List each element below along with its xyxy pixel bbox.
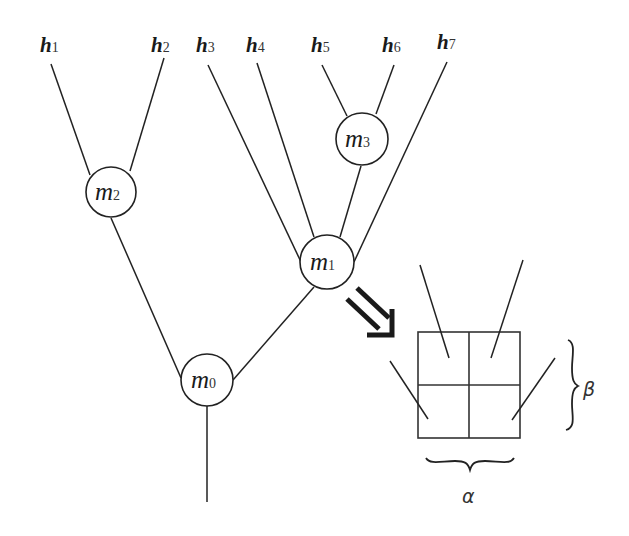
node-m1: m1 bbox=[300, 235, 354, 289]
edge-h1-m2 bbox=[51, 64, 90, 175]
edge-h5-m3 bbox=[322, 65, 347, 116]
beta-brace: β bbox=[566, 340, 595, 430]
leaf-h4: h4 bbox=[246, 33, 265, 57]
leaf-h5: h5 bbox=[311, 33, 330, 57]
leaf-labels: h1 h2 h3 h4 h5 h6 h7 bbox=[40, 30, 456, 57]
beta-label: β bbox=[582, 378, 595, 400]
edges bbox=[51, 58, 447, 502]
edge-m3-m1 bbox=[340, 166, 361, 237]
leaf-h6: h6 bbox=[382, 33, 401, 57]
edge-h3-m1 bbox=[208, 65, 301, 262]
edge-m2-m0 bbox=[111, 218, 181, 378]
edge-m1-m0 bbox=[233, 287, 314, 380]
edge-h4-m1 bbox=[257, 63, 314, 237]
expanded-grid bbox=[390, 260, 555, 438]
alpha-brace: α bbox=[426, 458, 514, 507]
node-m0: m0 bbox=[181, 354, 233, 406]
tree-diagram: m2 m3 m1 m0 h1 h2 h3 h4 h5 h6 h7 bbox=[0, 0, 629, 536]
leaf-h3: h3 bbox=[196, 33, 215, 57]
double-arrow-icon bbox=[347, 288, 392, 335]
leaf-h7: h7 bbox=[437, 30, 456, 54]
leaf-h1: h1 bbox=[40, 33, 59, 57]
edge-h6-m3 bbox=[376, 65, 394, 114]
node-m3: m3 bbox=[336, 113, 388, 165]
edge-h2-m2 bbox=[130, 58, 164, 171]
leaf-h2: h2 bbox=[151, 33, 170, 57]
node-m2: m2 bbox=[86, 167, 136, 217]
alpha-label: α bbox=[462, 485, 475, 507]
